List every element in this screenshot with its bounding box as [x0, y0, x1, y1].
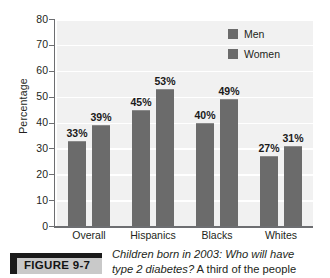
y-axis-tick-mark — [49, 97, 55, 98]
y-axis-tick-mark — [49, 148, 55, 149]
bar-value-label: 33% — [60, 128, 94, 139]
figure-tag-label: FIGURE 9-7 — [24, 259, 104, 271]
gridline — [57, 19, 313, 21]
x-axis-category-label: Whites — [245, 229, 317, 241]
bar — [220, 99, 238, 226]
bar — [132, 110, 150, 226]
bar-chart: Percentage 80706050403020100 33%39%45%53… — [0, 0, 330, 246]
caption-line-1: Children born in 2003: Who will have — [112, 248, 294, 260]
bar-value-label: 27% — [252, 143, 286, 154]
y-axis-tick-mark — [49, 45, 55, 46]
y-axis-tick-label: 0 — [22, 221, 48, 232]
y-axis-tick-label: 10 — [22, 195, 48, 206]
y-axis-tick-labels: 80706050403020100 — [22, 14, 48, 226]
y-axis-tick-mark — [49, 200, 55, 201]
y-axis-tick-mark — [49, 123, 55, 124]
bar-value-label: 40% — [188, 110, 222, 121]
gridline — [57, 71, 313, 73]
bar-value-label: 49% — [212, 86, 246, 97]
bar — [284, 146, 302, 226]
bar-value-label: 53% — [148, 76, 182, 87]
y-axis-tick-label: 50 — [22, 91, 48, 102]
figure-9-7: Percentage 80706050403020100 33%39%45%53… — [0, 0, 330, 278]
y-axis-tick-label: 60 — [22, 65, 48, 76]
x-axis-category-label: Overall — [53, 229, 125, 241]
bar-value-label: 31% — [276, 133, 310, 144]
gridline — [57, 97, 313, 99]
x-axis-category-label: Blacks — [181, 229, 253, 241]
y-axis-tick-label: 40 — [22, 117, 48, 128]
x-axis-category-labels: OverallHispanicsBlacksWhites — [57, 229, 313, 245]
y-axis-tick-mark — [49, 19, 55, 20]
legend-swatch-icon — [228, 29, 238, 39]
figure-caption-block: FIGURE 9-7 Children born in 2003: Who wi… — [0, 246, 330, 278]
bar — [92, 125, 110, 226]
y-axis-tick-mark — [49, 174, 55, 175]
legend-item: Men — [228, 25, 310, 42]
bar — [260, 156, 278, 226]
y-axis-tick-mark — [49, 71, 55, 72]
bar-value-label: 45% — [124, 97, 158, 108]
legend-swatch-icon — [228, 49, 238, 59]
chart-legend: MenWomen — [228, 25, 310, 65]
caption-line-2-body: A third of the people — [194, 263, 296, 275]
y-axis-tick-mark — [49, 226, 55, 227]
caption-line-2-question: type 2 diabetes? — [112, 263, 194, 275]
y-axis-tick-label: 80 — [22, 14, 48, 25]
x-axis-line — [54, 226, 313, 228]
bar-value-label: 39% — [84, 112, 118, 123]
y-axis-tick-label: 20 — [22, 169, 48, 180]
bar — [196, 123, 214, 227]
figure-number-tag: FIGURE 9-7 — [10, 253, 102, 274]
figure-caption-text: Children born in 2003: Who will have typ… — [112, 247, 330, 277]
legend-label: Women — [244, 48, 280, 60]
legend-label: Men — [244, 28, 264, 40]
bar — [68, 141, 86, 226]
y-axis-tick-label: 30 — [22, 143, 48, 154]
y-axis-tick-label: 70 — [22, 39, 48, 50]
legend-item: Women — [228, 45, 310, 62]
x-axis-category-label: Hispanics — [117, 229, 189, 241]
bar — [156, 89, 174, 226]
